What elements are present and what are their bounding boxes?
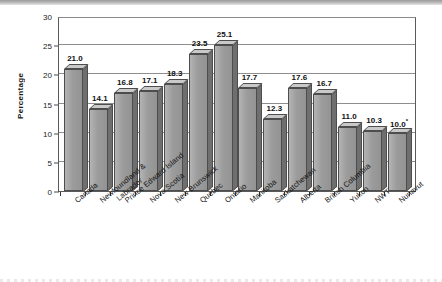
- scan-artifact-top-band: [0, 0, 442, 5]
- bar-value-label: 18.3: [159, 69, 191, 78]
- bar-value-label: 14.1: [84, 94, 116, 103]
- bar-chart: Percentage 051015202530 CanadaNewfoundla…: [0, 0, 442, 282]
- bar-front-face: [64, 69, 83, 192]
- bar-value-label: 12.3: [258, 104, 290, 113]
- y-tick-label: 10: [30, 129, 52, 138]
- bar: [238, 83, 257, 191]
- bar-value-label: 21.0: [59, 54, 91, 63]
- bar-side-face: [332, 89, 337, 191]
- bar-side-face: [407, 128, 412, 191]
- y-tick-label: 5: [30, 158, 52, 167]
- bar: [388, 128, 407, 191]
- bar-value-label: 25.1: [209, 30, 241, 39]
- bar: [64, 64, 83, 192]
- bar-front-face: [238, 88, 257, 191]
- y-tick-label: 30: [30, 13, 52, 22]
- footnote-asterisk: *: [406, 118, 408, 124]
- y-tick-label: 20: [30, 71, 52, 80]
- bar-side-face: [257, 83, 262, 191]
- bar-front-face: [313, 94, 332, 191]
- bar-side-face: [108, 104, 113, 191]
- bar: [313, 89, 332, 191]
- bar: [363, 126, 382, 191]
- bar-side-face: [357, 122, 362, 191]
- bar-value-label: 23.5: [184, 39, 216, 48]
- bar-value-label: 16.7: [308, 79, 340, 88]
- bar: [89, 104, 108, 191]
- bar-side-face: [382, 126, 387, 191]
- bar-front-face: [89, 109, 108, 191]
- bar-side-face: [233, 40, 238, 191]
- bar-side-face: [83, 64, 88, 191]
- bar-front-face: [388, 133, 407, 191]
- bar-value-label: 10.0*: [383, 118, 415, 129]
- y-tick-label: 0: [30, 188, 52, 197]
- y-tick-label: 15: [30, 100, 52, 109]
- bar-side-face: [282, 115, 287, 191]
- y-tick-label: 25: [30, 42, 52, 51]
- x-tick-mark: [60, 192, 61, 196]
- bar-value-label: 17.7: [233, 73, 265, 82]
- y-axis-title: Percentage: [16, 52, 30, 140]
